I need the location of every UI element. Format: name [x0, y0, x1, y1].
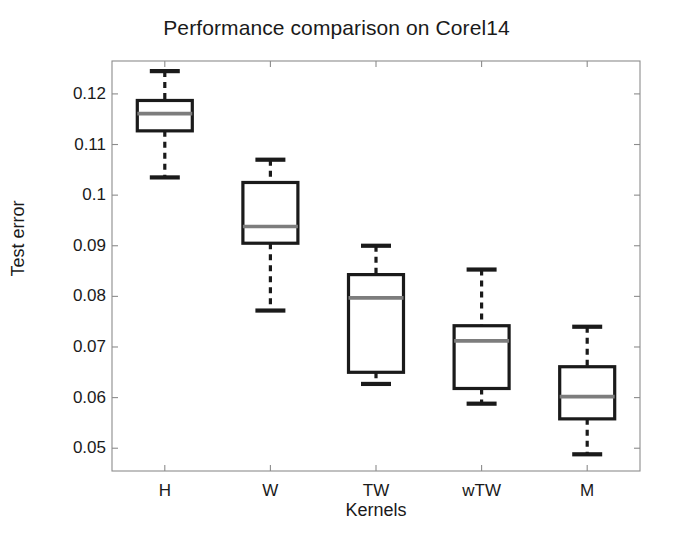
x-tick-label-h: H [159, 482, 171, 499]
x-axis-label: Kernels [112, 500, 640, 521]
x-tick-label-m: M [580, 482, 594, 499]
x-axis-tick-labels: HWTWwTWM [0, 0, 673, 538]
boxplot-figure: Performance comparison on Corel14 0.050.… [0, 0, 673, 538]
x-tick-label-tw: TW [363, 482, 389, 499]
y-axis-label: Test error [8, 159, 29, 319]
x-tick-label-wtw: wTW [462, 482, 501, 499]
x-tick-label-w: W [262, 482, 278, 499]
